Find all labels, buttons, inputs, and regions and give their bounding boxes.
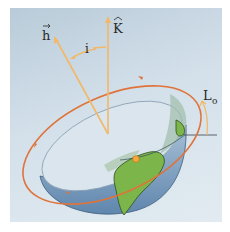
h-vector xyxy=(54,36,108,134)
arrowhead-icon xyxy=(70,55,75,59)
inclination-arc xyxy=(72,49,96,58)
ascending-node-marker xyxy=(133,156,140,163)
longitude-arc xyxy=(202,101,207,135)
longitude-label: L xyxy=(203,88,212,103)
k-unit-label: K xyxy=(113,21,123,36)
earth-hemisphere xyxy=(29,83,195,215)
inclination-label: i xyxy=(85,42,89,56)
orbit-diagram: h K i L o xyxy=(0,0,230,232)
hat-icon xyxy=(114,17,122,20)
h-vector-label: h xyxy=(42,28,51,43)
longitude-subscript: o xyxy=(212,96,217,106)
orbit-direction-arrow-icon xyxy=(138,76,143,80)
